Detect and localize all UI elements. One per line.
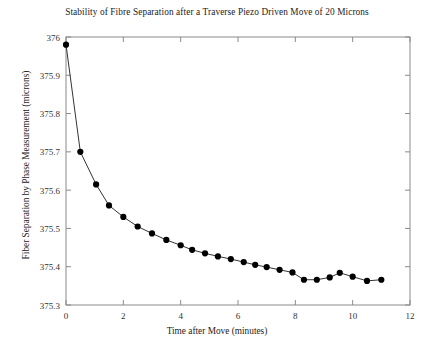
data-point — [364, 278, 370, 284]
data-point — [378, 277, 384, 283]
data-point — [241, 259, 247, 265]
x-tick-label: 8 — [293, 311, 298, 321]
x-tick-label: 4 — [178, 311, 183, 321]
x-tick-label: 12 — [406, 311, 415, 321]
y-tick-label: 375.5 — [40, 224, 61, 234]
data-point — [77, 149, 83, 155]
data-point — [301, 277, 307, 283]
data-point — [106, 202, 112, 208]
x-tick-label: 6 — [236, 311, 241, 321]
data-point — [93, 181, 99, 187]
data-point — [202, 250, 208, 256]
x-tick-label: 10 — [348, 311, 358, 321]
data-point — [252, 262, 258, 268]
y-tick-label: 375.6 — [40, 186, 61, 196]
x-axis-ticks: 024681012 — [64, 37, 415, 321]
y-tick-label: 375.8 — [40, 109, 61, 119]
y-tick-label: 375.4 — [40, 262, 61, 272]
data-point — [337, 270, 343, 276]
data-point — [264, 264, 270, 270]
y-tick-label: 375.3 — [40, 301, 61, 311]
data-point — [163, 237, 169, 243]
plot-area: 024681012 375.3375.4375.5375.6375.7375.8… — [0, 0, 434, 353]
y-tick-label: 376 — [47, 33, 61, 43]
x-tick-label: 2 — [121, 311, 126, 321]
data-point — [276, 267, 282, 273]
data-point — [314, 277, 320, 283]
axis-frame — [66, 37, 410, 305]
chart-figure: Stability of Fibre Separation after a Tr… — [0, 0, 434, 353]
data-point — [178, 242, 184, 248]
x-tick-label: 0 — [64, 311, 69, 321]
y-tick-label: 375.7 — [40, 147, 61, 157]
data-point — [215, 253, 221, 259]
series-line — [66, 45, 381, 281]
y-tick-label: 375.9 — [40, 71, 61, 81]
data-point — [350, 274, 356, 280]
data-point — [327, 274, 333, 280]
data-point — [228, 256, 234, 262]
data-point — [189, 247, 195, 253]
data-point — [289, 269, 295, 275]
data-point — [135, 223, 141, 229]
data-point — [63, 42, 69, 48]
data-point — [120, 214, 126, 220]
data-point — [149, 230, 155, 236]
y-axis-ticks: 375.3375.4375.5375.6375.7375.8375.9376 — [40, 33, 410, 311]
data-series — [63, 42, 385, 284]
